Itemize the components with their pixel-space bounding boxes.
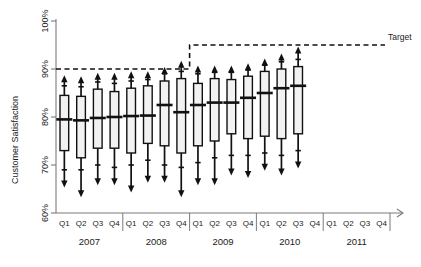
box-iqr [160, 81, 169, 146]
x-axis-year-label: 2007 [79, 236, 100, 247]
x-axis-quarter-label: Q2 [143, 219, 154, 228]
box-iqr [177, 79, 186, 153]
box-iqr [127, 88, 136, 153]
target-label: Target [388, 32, 412, 42]
x-axis-quarter-label: Q4 [376, 219, 387, 228]
x-axis-quarter-label: Q4 [176, 219, 187, 228]
y-axis-tick-label: 100% [40, 9, 50, 32]
x-axis-quarter-label: Q3 [226, 219, 237, 228]
y-axis-tick-label: 60% [40, 204, 50, 222]
box-iqr [60, 95, 69, 150]
box-iqr [227, 80, 236, 134]
y-axis-title: Customer Satisfaction [10, 96, 20, 184]
x-axis-quarter-label: Q1 [59, 219, 70, 228]
x-axis-quarter-label: Q3 [159, 219, 170, 228]
boxplot-chart: Customer Satisfaction 60%70%80%90%100% T… [0, 0, 421, 267]
x-axis-quarter-label: Q1 [259, 219, 270, 228]
box-iqr [210, 79, 219, 141]
box-iqr [110, 92, 119, 149]
x-axis-quarter-label: Q3 [92, 219, 103, 228]
x-axis-quarter-label: Q3 [293, 219, 304, 228]
x-axis-quarter-label: Q1 [326, 219, 337, 228]
x-axis-year-label: 2011 [346, 236, 366, 247]
x-axis-year-label: 2008 [146, 236, 167, 247]
x-axis-quarter-label: Q2 [209, 219, 220, 228]
x-axis-quarter-label: Q4 [109, 219, 120, 228]
x-axis-year-label: 2010 [279, 236, 300, 247]
y-axis-tick-label: 80% [40, 108, 50, 126]
box-iqr [77, 96, 86, 157]
box-iqr [277, 69, 286, 139]
y-axis-tick-label: 70% [40, 156, 50, 174]
x-axis-quarter-label: Q2 [343, 219, 354, 228]
box-iqr [194, 83, 203, 145]
x-axis-quarter-label: Q1 [193, 219, 204, 228]
box-iqr [294, 67, 303, 134]
x-axis-quarter-label: Q4 [243, 219, 254, 228]
x-axis-year-label: 2009 [212, 236, 233, 247]
y-axis-tick-label: 90% [40, 60, 50, 78]
x-axis-quarter-label: Q2 [276, 219, 287, 228]
x-axis-quarter-label: Q2 [76, 219, 87, 228]
box-iqr [260, 71, 269, 136]
x-axis-quarter-label: Q3 [360, 219, 371, 228]
box-iqr [244, 76, 253, 138]
chart-figure: Customer Satisfaction 60%70%80%90%100% T… [0, 0, 421, 267]
x-axis-quarter-label: Q4 [310, 219, 321, 228]
x-axis-quarter-label: Q1 [126, 219, 137, 228]
